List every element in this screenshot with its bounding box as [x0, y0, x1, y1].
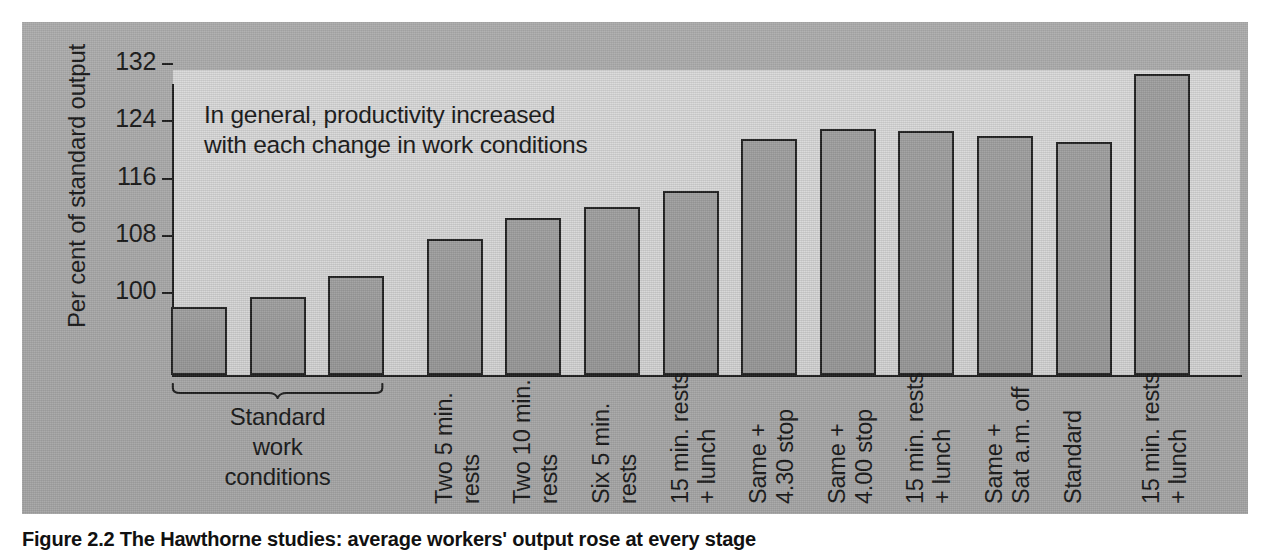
bar-2 — [250, 297, 306, 375]
bar-7 — [663, 191, 719, 375]
bar-4 — [427, 239, 483, 375]
category-label-12: Standard — [1060, 364, 1087, 504]
standard-conditions-brace — [171, 383, 384, 399]
bar-1 — [171, 307, 227, 375]
standard-conditions-label: Standard work conditions — [171, 402, 384, 492]
category-label-5: Two 10 min. rests — [509, 364, 563, 504]
bar-13 — [1134, 74, 1190, 375]
bars-layer — [22, 22, 1277, 377]
bar-12 — [1056, 142, 1112, 375]
bar-11 — [977, 136, 1033, 375]
category-label-7: 15 min. rests + lunch — [667, 364, 721, 504]
category-label-8: Same + 4.30 stop — [745, 364, 799, 504]
category-label-13: 15 min. rests + lunch — [1138, 364, 1192, 504]
bar-9 — [820, 129, 876, 375]
brace-icon — [171, 383, 384, 399]
category-label-11: Same + Sat a.m. off — [981, 364, 1035, 504]
bar-3 — [328, 276, 384, 375]
category-label-4: Two 5 min. rests — [431, 364, 485, 504]
figure-panel: 100108116124132 Per cent of standard out… — [22, 22, 1248, 514]
category-label-9: Same + 4.00 stop — [824, 364, 878, 504]
category-label-10: 15 min. rests + lunch — [902, 364, 956, 504]
bar-6 — [584, 207, 640, 375]
figure-caption: Figure 2.2 The Hawthorne studies: averag… — [22, 528, 1252, 551]
bar-5 — [505, 218, 561, 375]
bar-10 — [898, 131, 954, 375]
category-label-6: Six 5 min. rests — [588, 364, 642, 504]
bar-8 — [741, 139, 797, 375]
